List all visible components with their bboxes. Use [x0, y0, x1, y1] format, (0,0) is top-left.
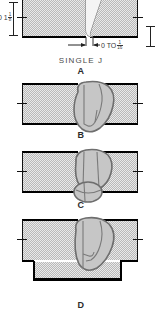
panel-a-letter: A: [0, 66, 162, 76]
dimension-label-root-opening-a: 0 TO116: [101, 41, 123, 51]
fraction-denominator: 16: [117, 46, 123, 51]
panel-c-letter: C: [0, 200, 162, 210]
panel-d-weld-backing: D: [0, 216, 162, 321]
panel-a-single-j: 0 118 0 TO116 SINGLE J A: [0, 0, 162, 78]
panel-b-letter: B: [0, 130, 162, 140]
panel-b-weld-section: B: [0, 80, 162, 142]
panel-a-caption: SINGLE J: [0, 56, 162, 65]
panel-d-letter: D: [0, 300, 162, 310]
panel-c-weld-section: C: [0, 148, 162, 210]
root-opening-text: 0 TO: [101, 42, 116, 49]
root-opening-fraction: 116: [117, 41, 123, 51]
